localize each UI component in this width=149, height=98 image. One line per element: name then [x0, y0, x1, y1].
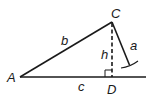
side-b [20, 22, 112, 77]
side-a [112, 22, 130, 65]
altitude-label-h: h [101, 47, 108, 62]
side-label-b: b [61, 33, 68, 48]
triangle-diagram: A C D b a c h [0, 0, 149, 98]
vertex-label-a: A [6, 70, 16, 85]
side-label-c: c [78, 79, 85, 94]
vertex-label-c: C [111, 6, 121, 21]
side-label-a: a [130, 38, 137, 53]
vertex-label-d: D [107, 82, 116, 97]
right-angle-marker [105, 70, 112, 77]
